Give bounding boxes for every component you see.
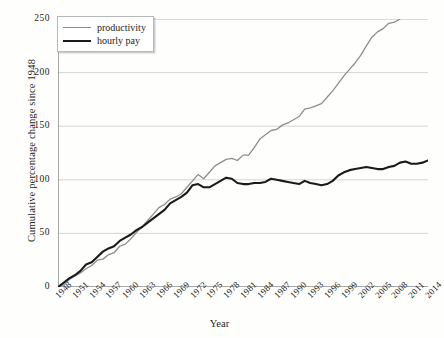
plot-area bbox=[58, 19, 428, 287]
chart-legend: productivity hourly pay bbox=[57, 16, 154, 52]
legend-label-hourly-pay: hourly pay bbox=[97, 35, 140, 46]
legend-item-productivity[interactable]: productivity bbox=[63, 21, 146, 34]
x-axis-label: Year bbox=[0, 318, 439, 329]
chart-svg bbox=[58, 19, 428, 287]
legend-item-hourly-pay[interactable]: hourly pay bbox=[63, 34, 146, 47]
legend-label-productivity: productivity bbox=[97, 22, 146, 33]
y-axis-label: Cumulative percentage change since 1948 bbox=[26, 36, 37, 266]
y-tick-label: 250 bbox=[16, 13, 50, 23]
legend-swatch-productivity-icon bbox=[63, 27, 91, 28]
legend-swatch-hourly-pay-icon bbox=[63, 40, 91, 42]
y-tick-label: 0 bbox=[16, 281, 50, 291]
